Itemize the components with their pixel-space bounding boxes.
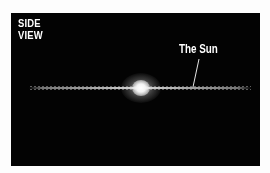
sun-pointer-line — [11, 13, 260, 166]
galaxy-side-view-panel: SIDE VIEW The Sun — [11, 13, 260, 166]
